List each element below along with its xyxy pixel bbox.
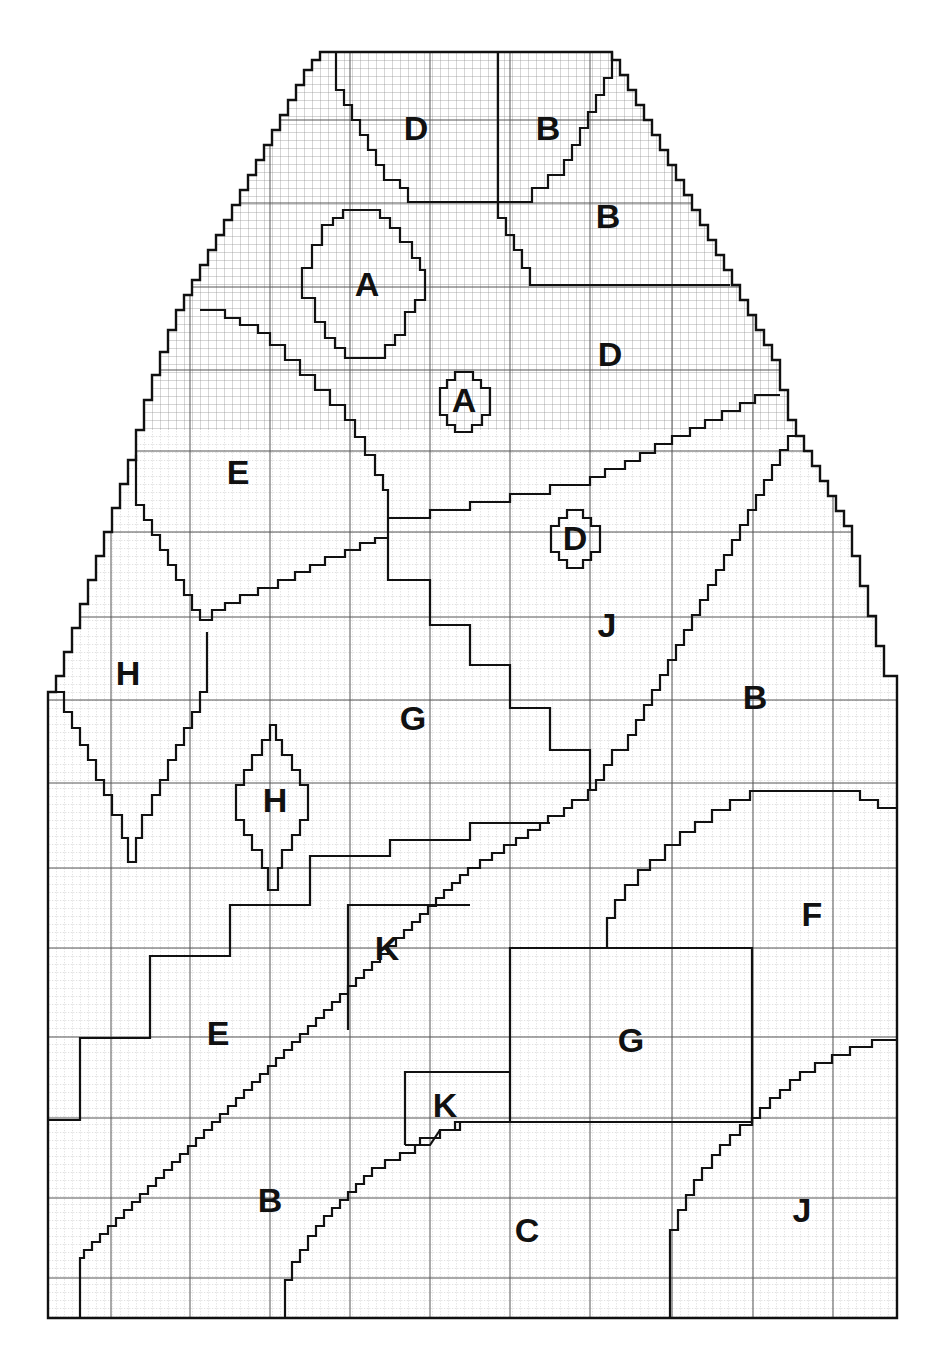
label-D-right: D [598,335,623,373]
label-A-small: A [452,381,477,419]
label-B-right: B [743,678,768,716]
label-G-middle: G [400,699,426,737]
label-B-top: B [536,109,561,147]
label-D-top: D [404,109,429,147]
label-J-middle: J [598,606,617,644]
label-B-upper-right: B [596,197,621,235]
label-C: C [515,1211,540,1249]
label-D-small: D [563,519,588,557]
label-H-left: H [116,654,141,692]
label-G-box: G [618,1021,644,1059]
label-J-lower: J [793,1191,812,1229]
label-B-lower: B [258,1181,283,1219]
grid-background [0,0,936,1371]
label-K-lower: K [433,1086,458,1124]
label-F: F [802,895,823,933]
label-K-upper: K [375,929,400,967]
stitch-chart: D B B A D A E D J H B G H F K E G K B C … [0,0,936,1371]
label-E-lower: E [207,1014,230,1052]
label-H-small: H [263,781,288,819]
label-A-large: A [355,265,380,303]
label-E-upper: E [227,453,250,491]
